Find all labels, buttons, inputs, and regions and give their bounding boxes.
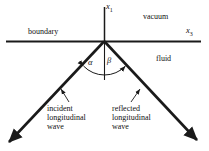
incident-wave-caption-line2: longitudinal bbox=[47, 113, 86, 122]
fluid-label: fluid bbox=[156, 54, 171, 63]
incident-wave-caption-line3: wave bbox=[47, 122, 86, 131]
incident-leader-line bbox=[61, 89, 69, 102]
angle-label-beta: β bbox=[107, 55, 111, 65]
axis-label-x1-sub: 1 bbox=[110, 7, 113, 13]
reflected-leader-line bbox=[131, 89, 140, 102]
axis-label-x3: x3 bbox=[186, 25, 193, 37]
incident-ray-arrowhead bbox=[9, 138, 13, 142]
boundary-label: boundary bbox=[28, 27, 58, 36]
angle-label-alpha: α bbox=[88, 57, 92, 67]
axis-label-x1: x1 bbox=[106, 1, 113, 13]
vacuum-label: vacuum bbox=[143, 12, 168, 21]
axis-label-x3-sub: 3 bbox=[190, 31, 193, 37]
incident-wave-caption-line1: incident bbox=[47, 104, 86, 113]
diagram-canvas bbox=[0, 0, 209, 151]
reflected-wave-caption-line3: wave bbox=[112, 122, 151, 131]
reflected-wave-caption: reflected longitudinal wave bbox=[112, 104, 151, 131]
reflected-wave-caption-line2: longitudinal bbox=[112, 113, 151, 122]
reflected-ray-arrowhead bbox=[193, 136, 197, 140]
incident-wave-caption: incident longitudinal wave bbox=[47, 104, 86, 131]
wave-reflection-diagram: x1 x3 boundary vacuum fluid α β incident… bbox=[0, 0, 209, 151]
reflected-wave-caption-line1: reflected bbox=[112, 104, 151, 113]
